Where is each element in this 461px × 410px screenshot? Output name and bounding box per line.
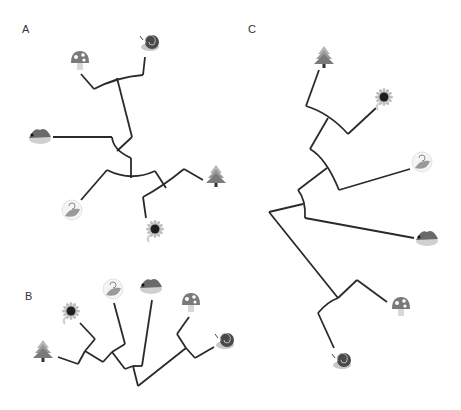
tree-branch bbox=[103, 352, 112, 362]
tree-branch bbox=[133, 366, 138, 386]
tree-branch bbox=[186, 348, 195, 358]
leaf-icon bbox=[62, 200, 82, 220]
phylogenetic-tree-figure: A B C bbox=[0, 0, 461, 410]
tree-branch bbox=[195, 347, 214, 358]
tree-branch bbox=[298, 168, 327, 190]
tree-diagram bbox=[0, 0, 461, 410]
tree-branch bbox=[318, 313, 334, 348]
tree-icon bbox=[206, 165, 226, 187]
sunflower-icon bbox=[146, 220, 164, 242]
tree-branch bbox=[306, 70, 319, 106]
mushroom-icon bbox=[392, 297, 410, 316]
tree-icon bbox=[314, 46, 334, 68]
panel-b-tree bbox=[33, 279, 234, 386]
tree-branch bbox=[143, 197, 146, 218]
tree-branch bbox=[177, 317, 189, 334]
panel-c-tree bbox=[269, 46, 438, 369]
tree-branch bbox=[85, 339, 95, 351]
panel-label-a: A bbox=[22, 24, 29, 35]
tree-branch bbox=[85, 351, 103, 362]
tree-branch bbox=[269, 212, 338, 298]
leaf-icon bbox=[103, 279, 123, 299]
tree-branch bbox=[339, 169, 410, 190]
snail-icon bbox=[140, 35, 159, 51]
leaf-icon bbox=[412, 152, 432, 172]
tree-branch bbox=[338, 280, 357, 298]
tree-branch bbox=[348, 108, 376, 134]
panel-label-b: B bbox=[25, 291, 32, 302]
tree-branch bbox=[117, 78, 132, 137]
tree-branch bbox=[125, 366, 133, 369]
tree-branch bbox=[112, 344, 125, 352]
tree-branch bbox=[117, 137, 132, 151]
tree-branch bbox=[114, 303, 125, 344]
tree-icon bbox=[33, 340, 53, 362]
sunflower-icon bbox=[62, 302, 80, 324]
tree-branch bbox=[269, 204, 303, 212]
tree-branch bbox=[80, 323, 95, 339]
tree-branch bbox=[81, 170, 107, 200]
snail-icon bbox=[215, 333, 234, 349]
hedgehog-icon bbox=[29, 129, 51, 144]
panel-a-tree bbox=[29, 35, 226, 242]
snail-icon bbox=[332, 353, 351, 369]
tree-branch bbox=[138, 348, 186, 386]
hedgehog-icon bbox=[140, 279, 162, 294]
tree-branch bbox=[143, 57, 145, 75]
hedgehog-icon bbox=[416, 231, 438, 246]
tree-branch bbox=[305, 218, 414, 238]
tree-branch bbox=[310, 118, 328, 149]
tree-branch bbox=[184, 169, 203, 180]
tree-branch bbox=[81, 74, 94, 89]
tree-branch bbox=[78, 351, 85, 364]
panel-label-c: C bbox=[248, 24, 256, 35]
tree-branch bbox=[112, 352, 125, 369]
tree-branch bbox=[177, 334, 186, 348]
sunflower-icon bbox=[375, 88, 393, 110]
mushroom-icon bbox=[71, 51, 89, 70]
mushroom-icon bbox=[182, 293, 200, 312]
tree-branch bbox=[142, 300, 152, 366]
tree-branch bbox=[318, 298, 338, 313]
tree-branch bbox=[357, 280, 387, 302]
tree-branch bbox=[58, 357, 78, 364]
